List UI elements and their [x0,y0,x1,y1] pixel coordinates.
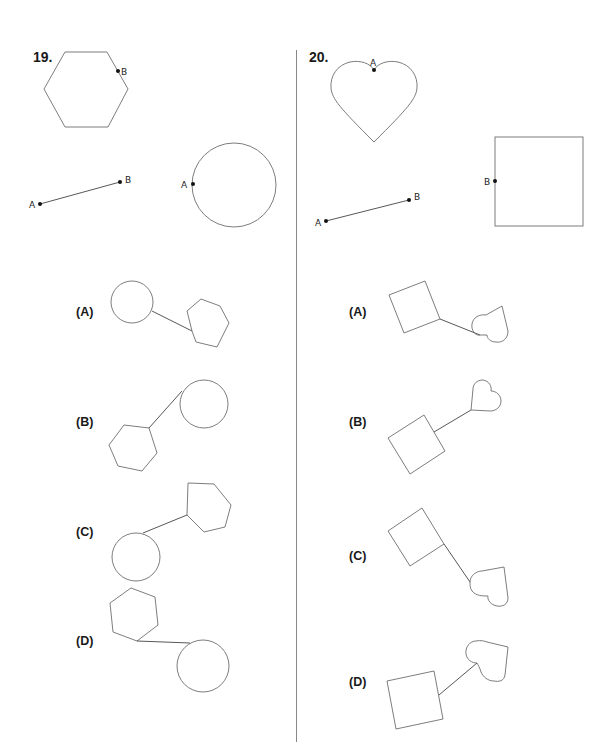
option-segment [137,641,190,643]
problem-20-given-segment: A B [315,192,420,228]
problem-19-option-d[interactable] [110,588,229,692]
problem-19-given-segment: A B [29,175,131,210]
square-point-b-label: B [484,177,490,187]
segment-point-b [407,198,411,202]
option-square [389,281,440,333]
problem-20-option-c[interactable] [388,508,508,606]
heart-shape [331,61,417,142]
circle-point-a-label: A [181,180,188,190]
option-segment [434,410,471,432]
option-segment [152,311,192,331]
option-heart [471,380,501,411]
problem-19-option-b[interactable] [109,380,228,471]
option-heart [472,306,508,342]
segment-point-a-label: A [315,218,322,228]
option-square [387,671,443,729]
square-point-b [493,179,497,183]
option-circle [180,380,228,428]
option-square [388,415,445,474]
segment-point-a [38,202,42,206]
problem-19-given-hexagon: B [44,52,128,127]
heart-point-a-label: A [370,58,377,68]
hexagon-point-b-label: B [121,67,127,77]
circle-shape [192,143,276,227]
problem-20-option-b[interactable] [388,380,501,474]
option-segment [149,391,182,428]
problem-20-given-square: B [484,137,583,226]
option-square [388,508,444,566]
segment-point-b [118,180,122,184]
option-segment [444,544,470,582]
problem-20-option-d[interactable] [387,641,508,729]
segment-ab [40,182,120,204]
option-hexagon [187,299,229,347]
hexagon-shape [44,52,128,127]
problem-19-given-circle: A [181,143,276,227]
option-hexagon [109,425,157,471]
hexagon-point-b [116,69,120,73]
option-segment [439,663,477,695]
segment-point-b-label: B [414,192,420,202]
square-shape [495,137,583,226]
option-hexagon [187,483,231,532]
problem-19-option-a[interactable] [111,281,229,347]
option-heart [470,567,508,606]
problem-20-given-heart: A [331,58,417,142]
option-segment [143,515,187,533]
segment-point-a-label: A [29,200,36,210]
heart-point-a [372,68,376,72]
segment-point-a [324,219,328,223]
segment-ab [326,200,409,221]
problem-20-option-a[interactable] [389,281,508,342]
option-circle [112,533,160,581]
option-circle [111,281,153,323]
segment-point-b-label: B [125,175,131,185]
circle-point-a [191,182,195,186]
option-hexagon [110,588,158,641]
option-heart [466,641,508,682]
option-circle [177,640,229,692]
problem-19-option-c[interactable] [112,483,231,581]
